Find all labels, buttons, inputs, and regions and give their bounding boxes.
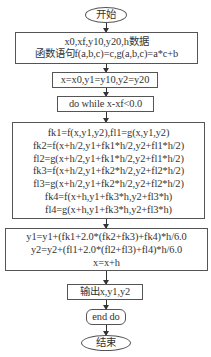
arrow-update-output (106, 271, 107, 284)
compute-line-3: fl2=g(x+h/2,y1+fk1*h/2,y2+fl1*h/2) (13, 153, 204, 166)
arrow-start-input (106, 23, 107, 32)
arrow-input-init (106, 64, 107, 72)
output-label: 输出x,y1,y2 (68, 285, 142, 299)
end-loop-box: end do (86, 309, 126, 325)
update-line-1: y1=y1+(fk1+2.0*(fk2+fk3)+fk4)*h/6.0 (6, 231, 207, 244)
init-label: x=x0,y1=y10,y2=y20 (53, 73, 157, 87)
update-line-3: x=x+h (6, 257, 207, 270)
compute-line-5: fl3=g(x+h/2,y1+fk2*h/2,y2+fl2*h/2) (13, 178, 204, 191)
compute-line-4: fk3=f(x+h/2,y1+fk2*h/2,y2+fl2*h/2) (13, 165, 204, 178)
arrow-init-loop (106, 88, 107, 96)
input-line-1: x0,xf,y10,y20,h数据 (16, 36, 197, 48)
init-box: x=x0,y1=y10,y2=y20 (52, 72, 158, 88)
update-line-2: y2=y2+(fl1+2.0*(fl2+fl3)+fl4)*h/6.0 (6, 244, 207, 257)
compute-line-7: fl4=g(x+h,y1+fk3*h,y2+fl3*h) (13, 204, 204, 217)
compute-box: fk1=f(x,y1,y2),fl1=g(x,y1,y2) fk2=f(x+h/… (12, 122, 205, 219)
output-box: 输出x,y1,y2 (67, 284, 143, 300)
end-node: 结束 (81, 335, 131, 351)
compute-line-6: fk4=f(x+h,y1+fk3*h,y2+fl3*h) (13, 191, 204, 204)
update-box: y1=y1+(fk1+2.0*(fk2+fk3)+fk4)*h/6.0 y2=y… (5, 228, 208, 271)
arrow-compute-update (106, 219, 107, 228)
input-line-2: 函数语句f(a,b,c)=c,g(a,b,c)=a*c+b (16, 48, 197, 60)
end-label: 结束 (82, 336, 130, 350)
loop-box: do while x-xf<0.0 (57, 96, 154, 112)
start-node: 开始 (85, 7, 127, 23)
arrow-output-endloop (106, 300, 107, 309)
compute-line-1: fk1=f(x,y1,y2),fl1=g(x,y1,y2) (13, 127, 204, 140)
arrow-loop-compute (106, 112, 107, 122)
arrow-endloop-end (106, 325, 107, 335)
compute-line-2: fk2=f(x+h/2,y1+fk1*h/2,y2+fl1*h/2) (13, 140, 204, 153)
start-label: 开始 (86, 8, 126, 22)
input-box: x0,xf,y10,y20,h数据 函数语句f(a,b,c)=c,g(a,b,c… (15, 32, 198, 64)
loop-label: do while x-xf<0.0 (58, 97, 153, 111)
end-loop-label: end do (87, 310, 125, 324)
